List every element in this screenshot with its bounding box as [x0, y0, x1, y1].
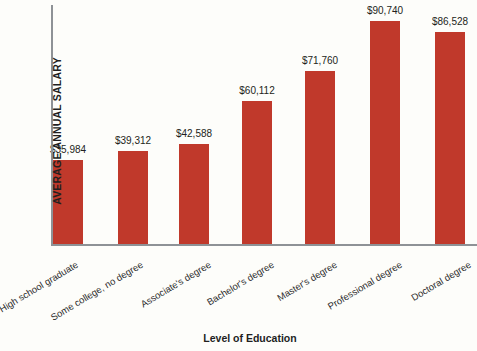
- bar-value-high-school-graduate: $35,984: [33, 144, 103, 155]
- category-label-doctoral-degree: Doctoral degree: [357, 259, 472, 334]
- category-label-masters-degree: Master's degree: [226, 259, 339, 333]
- bar-value-bachelors-degree: $60,112: [222, 85, 292, 96]
- bar-some-college-no-degree[interactable]: [118, 151, 148, 245]
- y-axis-title: AVERAGE ANNUAL SALARY: [51, 36, 63, 226]
- category-label-bachelors-degree: Bachelor's degree: [160, 259, 275, 334]
- bar-doctoral-degree[interactable]: [435, 32, 465, 245]
- bar-professional-degree[interactable]: [370, 21, 400, 245]
- x-axis-line: [51, 244, 477, 246]
- category-label-some-college-no-degree: Some college, no degree: [28, 259, 145, 335]
- bar-chart: $35,984 $39,312 $42,588 $60,112 $71,760 …: [0, 0, 477, 351]
- x-axis-title: Level of Education: [0, 332, 477, 344]
- bar-masters-degree[interactable]: [305, 71, 335, 245]
- bar-value-some-college-no-degree: $39,312: [98, 135, 168, 146]
- bar-value-associates-degree: $42,588: [159, 128, 229, 139]
- bar-value-doctoral-degree: $86,528: [415, 16, 477, 27]
- bar-associates-degree[interactable]: [179, 144, 209, 245]
- bar-bachelors-degree[interactable]: [242, 101, 272, 245]
- category-label-associates-degree: Associate's degree: [97, 259, 212, 334]
- plot-area: $35,984 $39,312 $42,588 $60,112 $71,760 …: [0, 0, 477, 351]
- bar-value-masters-degree: $71,760: [285, 55, 355, 66]
- bar-value-professional-degree: $90,740: [350, 5, 420, 16]
- category-label-professional-degree: Professional degree: [284, 259, 404, 337]
